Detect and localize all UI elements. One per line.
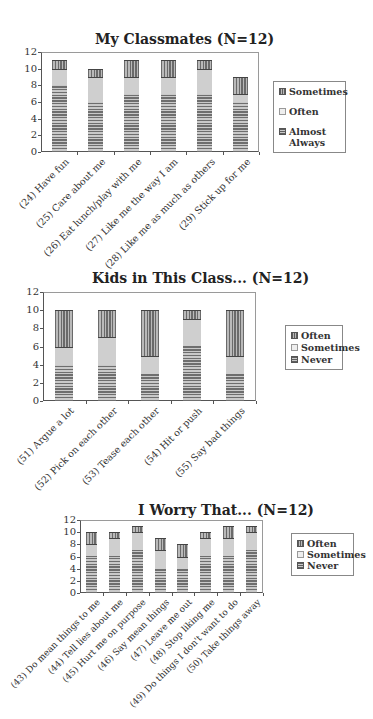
legend-swatch-icon bbox=[291, 356, 298, 363]
bar-segment-never bbox=[86, 556, 97, 593]
chart-legend: OftenSometimesNever bbox=[291, 533, 354, 576]
y-tick-mark bbox=[38, 69, 41, 70]
legend-swatch-icon bbox=[279, 88, 286, 95]
legend-swatch-icon bbox=[291, 344, 298, 351]
bar-segment-never bbox=[141, 374, 159, 401]
y-tick-mark bbox=[40, 292, 43, 293]
chart-title: Kids in This Class... (N=12) bbox=[92, 270, 309, 286]
legend-swatch-icon bbox=[297, 540, 304, 547]
legend-label: Sometimes bbox=[307, 549, 366, 560]
y-tick-label: 12 bbox=[19, 47, 37, 57]
y-tick-label: 2 bbox=[19, 130, 37, 140]
stacked-bar bbox=[233, 77, 248, 152]
bar-segment-never bbox=[155, 569, 166, 593]
plot-area bbox=[80, 520, 263, 593]
y-tick-mark bbox=[77, 520, 80, 521]
chart-title: I Worry That... (N=12) bbox=[138, 502, 314, 518]
legend-swatch-icon bbox=[279, 128, 286, 135]
chart-legend: OftenSometimesNever bbox=[285, 325, 343, 370]
y-tick-label: 8 bbox=[58, 539, 76, 549]
stacked-bar bbox=[246, 526, 257, 593]
chart-title: My Classmates (N=12) bbox=[95, 31, 274, 47]
bar-segment-sometimes bbox=[226, 356, 244, 374]
y-tick-label: 4 bbox=[58, 564, 76, 574]
legend-label: Often bbox=[289, 106, 319, 117]
stacked-bar bbox=[197, 60, 212, 152]
y-tick-label: 10 bbox=[21, 305, 39, 315]
legend-item-almost-always: Almost Always bbox=[279, 126, 340, 148]
bar-segment-often bbox=[55, 310, 73, 346]
y-tick-mark bbox=[77, 532, 80, 533]
stacked-bar bbox=[177, 544, 188, 593]
x-tick-mark bbox=[186, 152, 187, 155]
x-tick-mark bbox=[240, 593, 241, 596]
y-tick-label: 12 bbox=[58, 515, 76, 525]
bar-segment-sometimes bbox=[88, 69, 103, 77]
bar-segment-often bbox=[86, 532, 97, 544]
bar-segment-often bbox=[98, 310, 116, 337]
y-tick-label: 4 bbox=[21, 360, 39, 370]
y-tick-label: 0 bbox=[19, 147, 37, 157]
bar-segment-often bbox=[226, 310, 244, 355]
legend-label: Often bbox=[307, 538, 337, 549]
bar-segment-almost-always bbox=[161, 94, 176, 152]
legend-swatch-icon bbox=[291, 332, 298, 339]
y-tick-mark bbox=[77, 581, 80, 582]
bar-segment-almost-always bbox=[88, 102, 103, 152]
bar-segment-sometimes bbox=[155, 550, 166, 568]
bar-segment-often bbox=[183, 310, 201, 319]
bar-segment-never bbox=[132, 550, 143, 593]
legend-item-never: Never bbox=[297, 560, 348, 571]
legend-item-never: Never bbox=[291, 354, 337, 365]
legend-swatch-icon bbox=[297, 562, 304, 569]
y-tick-mark bbox=[38, 135, 41, 136]
bar-segment-never bbox=[109, 556, 120, 593]
y-tick-label: 6 bbox=[19, 97, 37, 107]
stacked-bar bbox=[86, 532, 97, 593]
x-axis-label: (29) Stick up for me bbox=[176, 156, 252, 232]
bar-segment-sometimes bbox=[200, 538, 211, 556]
y-tick-label: 0 bbox=[21, 396, 39, 406]
chart-legend: SometimesOftenAlmost Always bbox=[273, 81, 346, 153]
y-tick-mark bbox=[40, 310, 43, 311]
bar-segment-often bbox=[223, 526, 234, 538]
x-tick-mark bbox=[86, 401, 87, 404]
y-tick-mark bbox=[77, 544, 80, 545]
stacked-bar bbox=[132, 526, 143, 593]
legend-item-sometimes: Sometimes bbox=[279, 86, 340, 97]
legend-label: Often bbox=[301, 330, 331, 341]
legend-swatch-icon bbox=[279, 108, 286, 115]
stacked-bar bbox=[98, 310, 116, 401]
stacked-bar bbox=[124, 60, 139, 152]
stacked-bar bbox=[155, 538, 166, 593]
x-tick-mark bbox=[114, 152, 115, 155]
y-tick-mark bbox=[77, 557, 80, 558]
bar-segment-sometimes bbox=[98, 337, 116, 364]
x-tick-mark bbox=[194, 593, 195, 596]
bar-segment-almost-always bbox=[52, 85, 67, 152]
stacked-bar bbox=[161, 60, 176, 152]
y-tick-label: 6 bbox=[21, 342, 39, 352]
stacked-bar bbox=[109, 532, 120, 593]
stacked-bar bbox=[141, 310, 159, 401]
legend-item-often: Often bbox=[291, 330, 337, 341]
bar-segment-never bbox=[98, 365, 116, 401]
bar-segment-sometimes bbox=[55, 347, 73, 365]
y-tick-mark bbox=[40, 383, 43, 384]
bar-segment-sometimes bbox=[197, 60, 212, 68]
y-tick-mark bbox=[38, 119, 41, 120]
stacked-bar bbox=[200, 532, 211, 593]
y-tick-mark bbox=[38, 85, 41, 86]
legend-item-often: Often bbox=[279, 106, 340, 117]
x-tick-mark bbox=[259, 152, 260, 155]
bar-segment-sometimes bbox=[86, 544, 97, 556]
y-tick-label: 10 bbox=[58, 527, 76, 537]
bar-segment-never bbox=[55, 365, 73, 401]
stacked-bar bbox=[88, 69, 103, 152]
y-tick-mark bbox=[77, 593, 80, 594]
bar-segment-never bbox=[223, 556, 234, 593]
bar-segment-never bbox=[200, 556, 211, 593]
y-tick-mark bbox=[77, 569, 80, 570]
x-tick-mark bbox=[128, 401, 129, 404]
bar-segment-almost-always bbox=[233, 102, 248, 152]
